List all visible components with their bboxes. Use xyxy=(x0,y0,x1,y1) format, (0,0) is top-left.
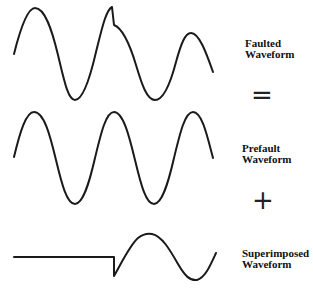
faulted-waveform-label: Faulted Waveform xyxy=(245,38,294,60)
superimposed-waveform-label: Superimposed Waveform xyxy=(242,248,309,270)
equals-sign: = xyxy=(251,82,273,108)
faulted-waveform-curve xyxy=(14,7,213,100)
faulted-label-line2: Waveform xyxy=(245,49,294,60)
prefault-label-line2: Waveform xyxy=(242,154,291,165)
superimposed-waveform-curve xyxy=(14,234,216,280)
superimposed-label-line2: Waveform xyxy=(242,259,309,270)
prefault-waveform-curve xyxy=(14,112,213,204)
plus-sign: + xyxy=(252,187,274,213)
prefault-waveform-label: Prefault Waveform xyxy=(242,143,291,165)
